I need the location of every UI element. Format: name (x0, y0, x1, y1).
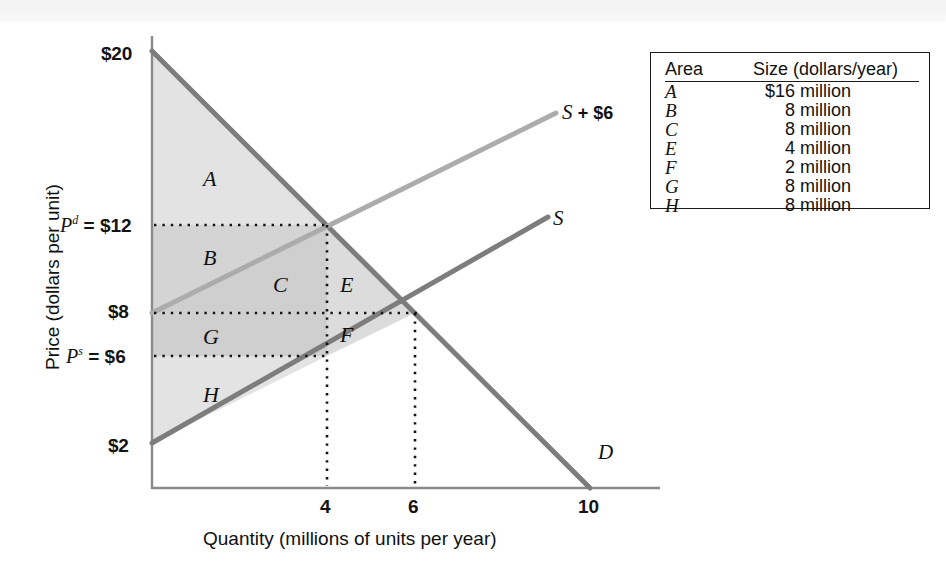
x-tick-6: 6 (408, 496, 419, 518)
cell-size: 8 million (739, 196, 919, 215)
pd-value: $12 (100, 215, 132, 236)
curve-label-supply-plus-tax: S + $6 (562, 100, 613, 125)
cell-area: H (665, 196, 739, 215)
figure-root: $20 Pd = $12 $8 Ps = $6 $2 Price (dollar… (0, 0, 946, 575)
y-tick-pd-12: Pd = $12 (60, 213, 132, 237)
cell-area: B (665, 101, 739, 120)
table-row: G 8 million (665, 177, 919, 196)
y-axis-title: Price (dollars per unit) (42, 184, 64, 370)
areas-table: Area Size (dollars/year) A $16 million B… (665, 59, 919, 215)
supply-tax-amount: + $6 (578, 103, 614, 123)
pd-equals: = (84, 215, 95, 236)
area-size-table: Area Size (dollars/year) A $16 million B… (650, 52, 930, 209)
ps-equals: = (88, 346, 99, 367)
region-label-B: B (203, 245, 216, 271)
curve-label-supply: S (553, 206, 564, 231)
table-header-row: Area Size (dollars/year) (665, 59, 919, 82)
table-row: E 4 million (665, 139, 919, 158)
table-row: F 2 million (665, 158, 919, 177)
region-label-A: A (203, 166, 216, 192)
cell-size: 4 million (739, 139, 919, 158)
table-row: A $16 million (665, 82, 919, 102)
ps-value: $6 (105, 346, 126, 367)
y-tick-20: $20 (101, 43, 132, 65)
region-label-H: H (203, 382, 219, 408)
y-tick-8: $8 (108, 301, 129, 323)
y-tick-ps-6: Ps = $6 (66, 344, 126, 368)
cell-size: $16 million (739, 82, 919, 102)
region-G-shape (152, 313, 327, 356)
ps-symbol: Ps (66, 345, 83, 367)
table-row: C 8 million (665, 120, 919, 139)
region-label-C: C (273, 272, 288, 298)
cell-size: 8 million (739, 177, 919, 196)
x-tick-10: 10 (578, 496, 599, 518)
region-label-F: F (340, 322, 353, 348)
cell-size: 8 million (739, 101, 919, 120)
column-header-size: Size (dollars/year) (739, 59, 919, 82)
supply-tax-s: S (562, 100, 573, 124)
curve-label-demand: D (598, 440, 613, 465)
table-row: H 8 million (665, 196, 919, 215)
areas-table-body: A $16 million B 8 million C 8 million E … (665, 82, 919, 216)
x-axis-title: Quantity (millions of units per year) (203, 528, 497, 550)
region-label-E: E (340, 272, 353, 298)
y-tick-2: $2 (108, 435, 129, 457)
cell-area: G (665, 177, 739, 196)
cell-area: C (665, 120, 739, 139)
cell-area: E (665, 139, 739, 158)
x-tick-4: 4 (320, 496, 331, 518)
region-label-G: G (203, 324, 219, 350)
cell-area: A (665, 82, 739, 102)
cell-area: F (665, 158, 739, 177)
cell-size: 8 million (739, 120, 919, 139)
table-row: B 8 million (665, 101, 919, 120)
column-header-area: Area (665, 59, 739, 82)
cell-size: 2 million (739, 158, 919, 177)
